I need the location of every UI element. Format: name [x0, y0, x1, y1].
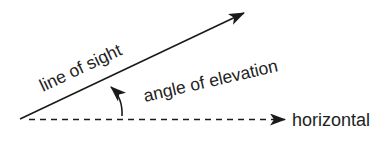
line-of-sight-arrow	[20, 13, 244, 119]
elevation-diagram: line of sight angle of elevation horizon…	[0, 0, 390, 141]
angle-of-elevation-label: angle of elevation	[141, 56, 279, 106]
angle-arc-arrow	[111, 87, 122, 116]
horizontal-label: horizontal	[292, 110, 370, 130]
